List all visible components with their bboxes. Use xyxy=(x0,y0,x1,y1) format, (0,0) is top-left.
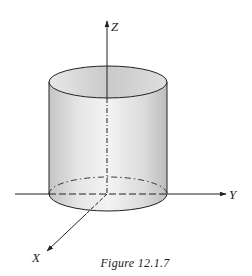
z-axis-label: Z xyxy=(111,19,119,34)
x-axis xyxy=(47,214,86,251)
figure-caption: Figure 12.1.7 xyxy=(0,256,252,271)
cylinder-side-surface xyxy=(49,82,167,211)
y-axis-label: Y xyxy=(229,187,238,202)
cylinder-diagram: Z Y X xyxy=(0,0,252,276)
